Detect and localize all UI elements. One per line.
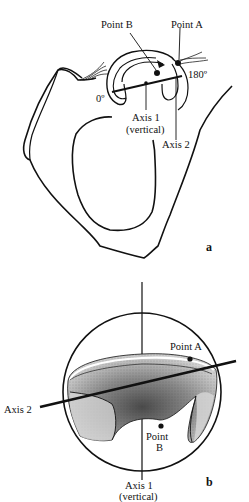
label-180-deg: 180º: [188, 69, 208, 80]
figure-a-scapula: [24, 62, 232, 258]
label-axis2-b: Axis 2: [4, 404, 32, 415]
label-0-deg: 0º: [96, 93, 105, 104]
label-point-b-b-line2: B: [156, 442, 163, 453]
panel-label-a: a: [206, 240, 212, 254]
rotation-arrow-icon: [157, 60, 165, 68]
point-b-marker-b: [158, 423, 163, 428]
label-point-b-a: Point B: [101, 19, 133, 30]
label-point-a-a: Point A: [171, 19, 203, 30]
point-a-marker-b: [187, 356, 192, 361]
panel-label-b: b: [206, 475, 213, 489]
label-point-b-b-line1: Point: [146, 431, 168, 442]
label-axis1-a-line2: (vertical): [126, 124, 165, 136]
label-point-a-b: Point A: [170, 341, 202, 352]
figure-b-sphere: [40, 282, 236, 480]
point-a-marker-a: [175, 60, 181, 66]
label-axis1-a-line1: Axis 1: [132, 112, 160, 123]
point-b-marker-a: [154, 70, 160, 76]
figure-canvas: Point B Point A 180º 0º Axis 1 (vertical…: [0, 0, 249, 502]
label-axis1-b-line1: Axis 1: [125, 480, 153, 491]
label-axis1-b-line2: (vertical): [119, 491, 158, 502]
label-axis2-a: Axis 2: [162, 139, 190, 150]
